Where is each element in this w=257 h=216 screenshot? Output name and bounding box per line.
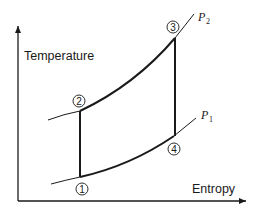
pressure-label-p2: P 2 — [197, 10, 210, 26]
x-axis-label: Entropy — [192, 182, 236, 196]
ts-diagram: Temperature Entropy 1 2 3 4 P 2 P 1 — [0, 0, 257, 216]
pressure-label-p2-subscript: 2 — [206, 17, 210, 26]
process-4-1 — [80, 136, 174, 177]
y-axis-label: Temperature — [24, 49, 94, 63]
state-point-4: 4 — [168, 143, 180, 155]
state-point-2: 2 — [73, 95, 85, 107]
state-point-2-label: 2 — [76, 96, 82, 107]
isobar-p1-thin-right — [174, 118, 196, 136]
pressure-label-p1: P 1 — [200, 108, 213, 124]
state-point-3-label: 3 — [170, 22, 176, 33]
state-point-3: 3 — [167, 21, 179, 33]
process-2-3 — [80, 38, 175, 111]
pressure-label-p1-letter: P — [200, 108, 209, 122]
isobar-p1-thin-left — [51, 177, 80, 184]
pressure-label-p2-letter: P — [197, 10, 206, 24]
pressure-label-p1-subscript: 1 — [209, 115, 213, 124]
isobar-p2-thin-left — [48, 111, 80, 120]
state-point-1: 1 — [76, 183, 88, 195]
state-point-4-label: 4 — [171, 144, 177, 155]
state-point-1-label: 1 — [79, 184, 85, 195]
